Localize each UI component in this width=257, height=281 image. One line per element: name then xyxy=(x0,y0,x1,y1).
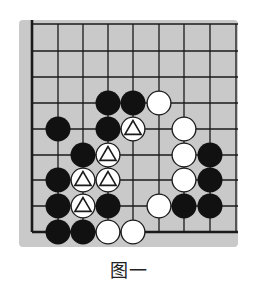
black-stone-body xyxy=(198,168,223,193)
white-stone-triangle-marked xyxy=(121,117,145,141)
black-stone xyxy=(96,91,121,116)
white-stone xyxy=(147,194,171,218)
black-stone-body xyxy=(71,220,96,245)
black-stone xyxy=(172,194,197,219)
white-stone-triangle-marked xyxy=(96,168,120,192)
black-stone-body xyxy=(96,91,121,116)
black-stone xyxy=(96,194,121,219)
go-board xyxy=(0,0,257,281)
figure-caption: 图一 xyxy=(0,256,257,281)
black-stone xyxy=(46,117,71,142)
white-stone-body xyxy=(96,220,120,244)
black-stone xyxy=(71,220,96,245)
black-stone xyxy=(46,168,71,193)
black-stone-body xyxy=(198,143,223,168)
white-stone xyxy=(172,143,196,167)
white-stone xyxy=(121,220,145,244)
white-stone-body xyxy=(172,168,196,192)
go-diagram-figure: 图一 xyxy=(0,0,257,281)
black-stone-body xyxy=(46,117,71,142)
white-stone xyxy=(147,91,171,115)
black-stone xyxy=(96,117,121,142)
black-stone xyxy=(71,143,96,168)
black-stone-body xyxy=(46,220,71,245)
black-stone xyxy=(46,194,71,219)
black-stone xyxy=(198,143,223,168)
white-stone xyxy=(96,220,120,244)
black-stone xyxy=(198,194,223,219)
black-stone-body xyxy=(172,194,197,219)
white-stone-body xyxy=(172,143,196,167)
white-stone-body xyxy=(147,91,171,115)
black-stone-body xyxy=(198,194,223,219)
black-stone xyxy=(198,168,223,193)
white-stone-body xyxy=(121,220,145,244)
white-stone-body xyxy=(172,117,196,141)
black-stone xyxy=(46,220,71,245)
white-stone-triangle-marked xyxy=(71,168,95,192)
black-stone-body xyxy=(46,194,71,219)
black-stone xyxy=(121,91,146,116)
black-stone-body xyxy=(96,117,121,142)
white-stone-body xyxy=(147,194,171,218)
white-stone-triangle-marked xyxy=(96,143,120,167)
white-stone xyxy=(172,117,196,141)
black-stone-body xyxy=(96,194,121,219)
black-stone-body xyxy=(71,143,96,168)
white-stone xyxy=(172,168,196,192)
white-stone-triangle-marked xyxy=(71,194,95,218)
black-stone-body xyxy=(46,168,71,193)
black-stone-body xyxy=(121,91,146,116)
